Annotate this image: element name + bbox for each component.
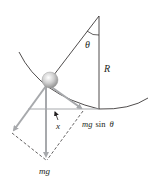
theta-label: θ xyxy=(85,39,90,50)
pendulum-diagram: θ R x mg sin θ mg xyxy=(0,0,159,185)
weight-label: mg xyxy=(39,166,50,176)
radial-component-arrow xyxy=(14,86,46,130)
x-pointer-arrow xyxy=(55,112,58,120)
component-dashed-line xyxy=(12,133,46,160)
tangential-force-sin: sin xyxy=(96,119,107,129)
circular-path-arc xyxy=(19,52,148,109)
pendulum-string xyxy=(50,16,99,80)
radius-label: R xyxy=(103,63,110,74)
tangential-force-mg: mg xyxy=(82,119,92,129)
theta-angle-arc xyxy=(87,31,99,35)
tangential-force-theta: θ xyxy=(110,119,114,129)
tangential-force-label: mg sin θ xyxy=(82,119,114,129)
component-dashed-line xyxy=(47,111,83,160)
tangential-force-arrow xyxy=(50,86,81,108)
pendulum-ball xyxy=(42,72,58,88)
displacement-label: x xyxy=(55,121,60,131)
